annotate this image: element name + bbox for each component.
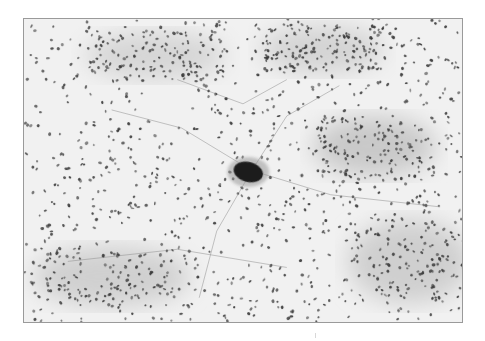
small-tick-mark: [315, 333, 316, 338]
tissue-texture: [24, 19, 462, 322]
micrograph-image: [23, 18, 463, 323]
